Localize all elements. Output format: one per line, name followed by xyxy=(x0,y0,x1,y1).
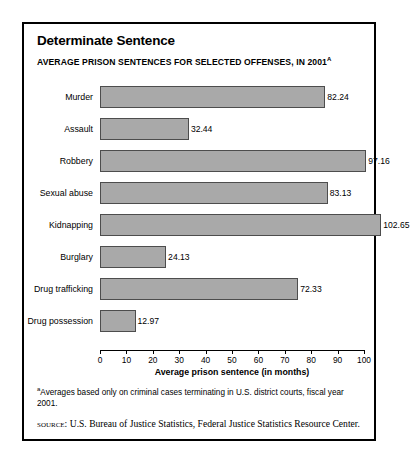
x-axis-tick xyxy=(285,350,286,354)
bar xyxy=(100,182,328,204)
bar-track: 12.97 xyxy=(100,306,374,336)
bar xyxy=(100,214,381,236)
bar-value-label: 32.44 xyxy=(189,124,213,134)
bar-track: 102.65 xyxy=(100,210,374,240)
bar xyxy=(100,278,298,300)
x-axis-tick xyxy=(311,350,312,354)
x-axis-tick xyxy=(258,350,259,354)
bar-track: 97.16 xyxy=(100,146,374,176)
bar xyxy=(100,150,366,172)
bar-track: 82.24 xyxy=(100,82,374,112)
footnote-text: Averages based only on criminal cases te… xyxy=(37,388,344,408)
bar-value-label: 72.33 xyxy=(298,284,322,294)
x-axis-tick xyxy=(179,350,180,354)
bar-category-label: Kidnapping xyxy=(24,220,100,230)
bar xyxy=(100,246,166,268)
x-axis-tick xyxy=(100,350,101,354)
x-axis: Average prison sentence (in months) 0102… xyxy=(100,350,364,384)
bar xyxy=(100,118,189,140)
x-axis-tick-label: 10 xyxy=(122,355,131,365)
x-axis-tick-label: 50 xyxy=(227,355,236,365)
bar-row: Drug possession12.97 xyxy=(24,306,374,336)
bar-category-label: Robbery xyxy=(24,156,100,166)
x-axis-tick-label: 60 xyxy=(254,355,263,365)
bar-track: 32.44 xyxy=(100,114,374,144)
bar-value-label: 83.13 xyxy=(328,188,352,198)
bar-category-label: Burglary xyxy=(24,252,100,262)
x-axis-tick xyxy=(232,350,233,354)
panel-notes: aAverages based only on criminal cases t… xyxy=(37,387,362,430)
page-title: Determinate Sentence xyxy=(37,33,362,49)
bar-row: Drug trafficking72.33 xyxy=(24,274,374,304)
bar-category-label: Drug possession xyxy=(24,316,100,326)
bar-category-label: Drug trafficking xyxy=(24,284,100,294)
bar-value-label: 97.16 xyxy=(366,156,390,166)
bar-value-label: 12.97 xyxy=(136,316,160,326)
x-axis-tick-label: 90 xyxy=(333,355,342,365)
bar-track: 83.13 xyxy=(100,178,374,208)
bar-chart-plot: Murder82.24Assault32.44Robbery97.16Sexua… xyxy=(24,82,374,350)
chart-subtitle-text: AVERAGE PRISON SENTENCES FOR SELECTED OF… xyxy=(37,57,327,67)
bar-value-label: 82.24 xyxy=(325,92,349,102)
x-axis-tick-label: 70 xyxy=(280,355,289,365)
bar-category-label: Murder xyxy=(24,92,100,102)
x-axis-tick xyxy=(126,350,127,354)
footnote: aAverages based only on criminal cases t… xyxy=(37,387,362,409)
bar-category-label: Assault xyxy=(24,124,100,134)
x-axis-tick xyxy=(364,350,365,354)
x-axis-tick xyxy=(206,350,207,354)
bar-row: Sexual abuse83.13 xyxy=(24,178,374,208)
panel-header: Determinate Sentence AVERAGE PRISON SENT… xyxy=(24,24,374,68)
bar-row: Assault32.44 xyxy=(24,114,374,144)
bar-value-label: 24.13 xyxy=(166,252,190,262)
x-axis-tick-label: 0 xyxy=(98,355,103,365)
bar-track: 72.33 xyxy=(100,274,374,304)
x-axis-tick xyxy=(338,350,339,354)
chart-subtitle: AVERAGE PRISON SENTENCES FOR SELECTED OF… xyxy=(37,57,362,68)
x-axis-title: Average prison sentence (in months) xyxy=(100,367,364,378)
x-axis-tick-label: 30 xyxy=(175,355,184,365)
subtitle-footnote-marker: a xyxy=(327,56,331,62)
bar-value-label: 102.65 xyxy=(381,220,409,230)
x-axis-tick-label: 20 xyxy=(148,355,157,365)
bar-row: Burglary24.13 xyxy=(24,242,374,272)
x-axis-tick xyxy=(153,350,154,354)
x-axis-tick-label: 40 xyxy=(201,355,210,365)
source-label: SOURCE: xyxy=(37,418,67,429)
chart-panel: Determinate Sentence AVERAGE PRISON SENT… xyxy=(22,22,376,441)
bar-row: Kidnapping102.65 xyxy=(24,210,374,240)
bar-row: Murder82.24 xyxy=(24,82,374,112)
bar-track: 24.13 xyxy=(100,242,374,272)
source-text: U.S. Bureau of Justice Statistics, Feder… xyxy=(70,418,360,429)
bar xyxy=(100,310,136,332)
x-axis-tick-label: 80 xyxy=(307,355,316,365)
x-axis-tick-label: 100 xyxy=(357,355,371,365)
bar-row: Robbery97.16 xyxy=(24,146,374,176)
bar xyxy=(100,86,325,108)
source-line: SOURCE: U.S. Bureau of Justice Statistic… xyxy=(37,418,362,430)
bar-category-label: Sexual abuse xyxy=(24,188,100,198)
